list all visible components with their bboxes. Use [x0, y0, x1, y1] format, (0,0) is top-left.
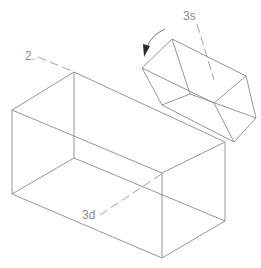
axis-3s-line — [197, 24, 214, 80]
axes — [38, 24, 214, 215]
axis-2-line — [38, 57, 74, 72]
large-box — [12, 72, 225, 258]
small-box — [142, 39, 256, 142]
axis-3s-label: 3s — [183, 9, 196, 23]
axis-3d-label: 3d — [82, 208, 95, 222]
isometric-diagram: 2. 3s 3d — [0, 0, 261, 268]
axis-3d-line — [100, 173, 163, 215]
axis-2-label: 2. — [25, 49, 35, 63]
rotation-arrow-icon — [143, 29, 165, 57]
